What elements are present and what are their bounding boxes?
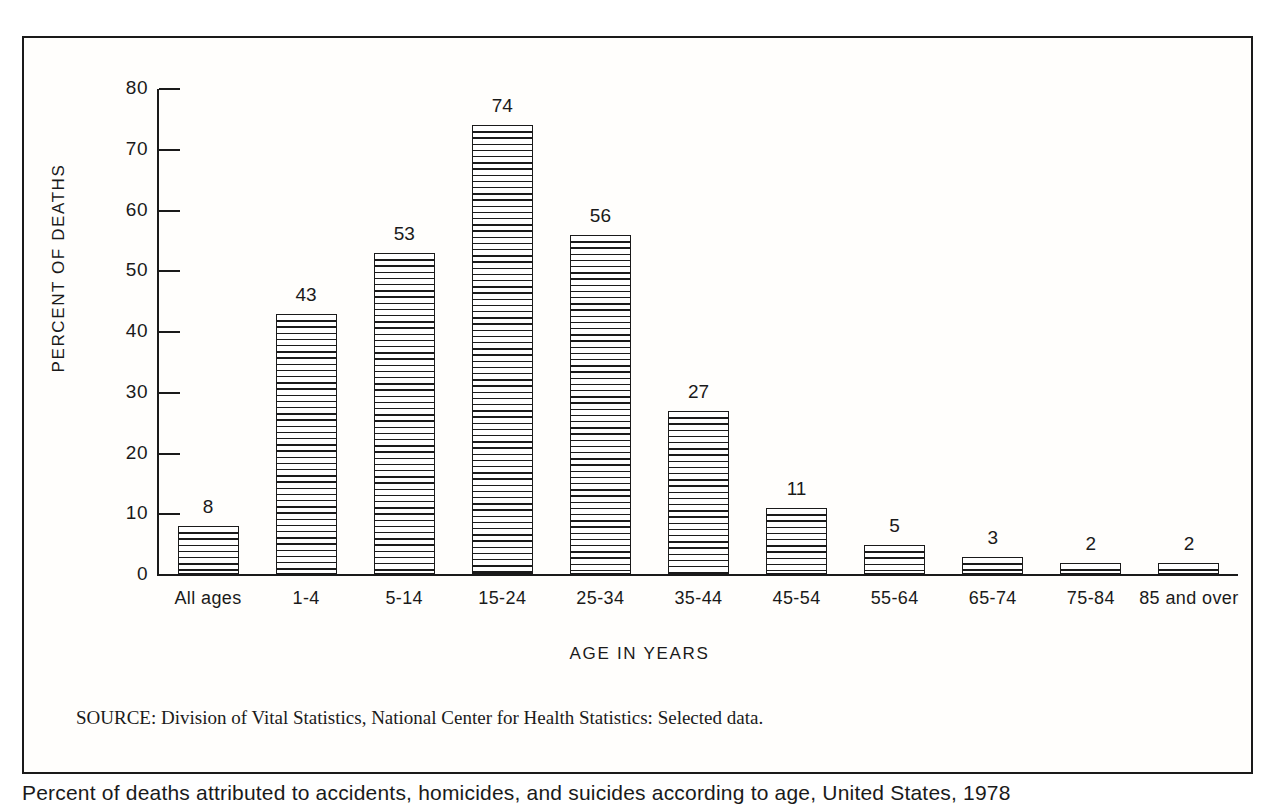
x-tick-label: 35-44	[674, 588, 722, 609]
source-note: SOURCE: Division of Vital Statistics, Na…	[76, 707, 763, 729]
x-tick-label: 75-84	[1067, 588, 1115, 609]
bar-value-label: 3	[987, 527, 998, 549]
y-tick-label: 10	[126, 502, 148, 524]
bar[interactable]	[864, 545, 925, 575]
y-tick-label: 20	[126, 442, 148, 464]
x-axis-title: AGE IN YEARS	[24, 644, 1255, 664]
bar-group: 7415-24	[453, 89, 551, 575]
y-tick-label: 40	[126, 320, 148, 342]
bar[interactable]	[1158, 563, 1219, 575]
bar-value-label: 74	[492, 95, 513, 117]
y-tick-label: 30	[126, 381, 148, 403]
bar-group: 535-14	[355, 89, 453, 575]
bar-series: 8All ages431-4535-147415-245625-342735-4…	[159, 89, 1238, 575]
x-tick-label: 25-34	[576, 588, 624, 609]
x-tick-label: 5-14	[385, 588, 423, 609]
bar[interactable]	[962, 557, 1023, 575]
figure-caption: Percent of deaths attributed to accident…	[22, 781, 1262, 805]
x-tick-label: 1-4	[293, 588, 320, 609]
y-tick-label: 80	[126, 77, 148, 99]
bar-value-label: 8	[203, 496, 214, 518]
y-tick-label: 50	[126, 259, 148, 281]
y-tick-label: 60	[126, 199, 148, 221]
x-tick-label: 55-64	[871, 588, 919, 609]
bar-value-label: 56	[590, 205, 611, 227]
bar[interactable]	[1060, 563, 1121, 575]
bar-group: 2735-44	[649, 89, 747, 575]
bar-group: 275-84	[1042, 89, 1140, 575]
bar[interactable]	[276, 314, 337, 575]
bar-group: 285 and over	[1140, 89, 1238, 575]
bar-value-label: 5	[889, 515, 900, 537]
bar-value-label: 53	[394, 223, 415, 245]
bar-value-label: 27	[688, 381, 709, 403]
bar-value-label: 43	[296, 284, 317, 306]
y-tick-label: 0	[137, 563, 148, 585]
bar-group: 5625-34	[551, 89, 649, 575]
y-axis-title: PERCENT OF DEATHS	[49, 98, 69, 438]
bar-group: 1145-54	[748, 89, 846, 575]
bar-value-label: 2	[1184, 533, 1195, 555]
x-tick-label: 65-74	[969, 588, 1017, 609]
x-tick-label: 15-24	[478, 588, 526, 609]
bar-group: 365-74	[944, 89, 1042, 575]
bar[interactable]	[472, 125, 533, 575]
bar-group: 8All ages	[159, 89, 257, 575]
bar-group: 555-64	[846, 89, 944, 575]
y-tick-label: 70	[126, 138, 148, 160]
bar-value-label: 11	[787, 478, 807, 500]
x-tick-label: 45-54	[773, 588, 821, 609]
x-tick-label: All ages	[174, 588, 241, 609]
plot-area: 01020304050607080 8All ages431-4535-1474…	[157, 89, 1242, 625]
bar-group: 431-4	[257, 89, 355, 575]
x-tick-label: 85 and over	[1139, 588, 1238, 609]
bar[interactable]	[570, 235, 631, 575]
bar[interactable]	[178, 526, 239, 575]
bar[interactable]	[374, 253, 435, 575]
bar[interactable]	[668, 411, 729, 575]
figure-frame: PERCENT OF DEATHS 01020304050607080 8All…	[22, 36, 1253, 774]
bar[interactable]	[766, 508, 827, 575]
bar-value-label: 2	[1086, 533, 1097, 555]
